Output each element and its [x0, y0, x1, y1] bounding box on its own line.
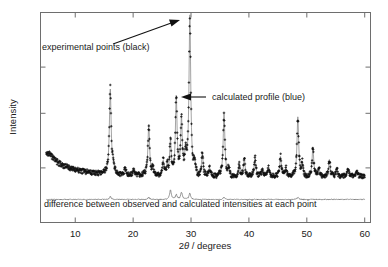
x-tick-label: 40 — [244, 228, 255, 239]
x-tick-label: 50 — [302, 228, 313, 239]
x-axis-title: 2θ / degrees — [179, 240, 232, 251]
diffraction-figure: 102030405060 experimental points (black)… — [0, 0, 388, 267]
x-tick-label: 30 — [186, 228, 197, 239]
calculated-profile-label: calculated profile (blue) — [212, 92, 305, 102]
difference-curve-label: difference between observed and calculat… — [44, 199, 317, 209]
rietveld-plot-svg: 102030405060 experimental points (black)… — [0, 0, 388, 267]
y-axis-title: Intensity — [7, 99, 18, 135]
x-tick-label: 20 — [128, 228, 139, 239]
x-tick-label: 10 — [70, 228, 81, 239]
experimental-points-label: experimental points (black) — [42, 42, 150, 52]
x-tick-label: 60 — [359, 228, 370, 239]
